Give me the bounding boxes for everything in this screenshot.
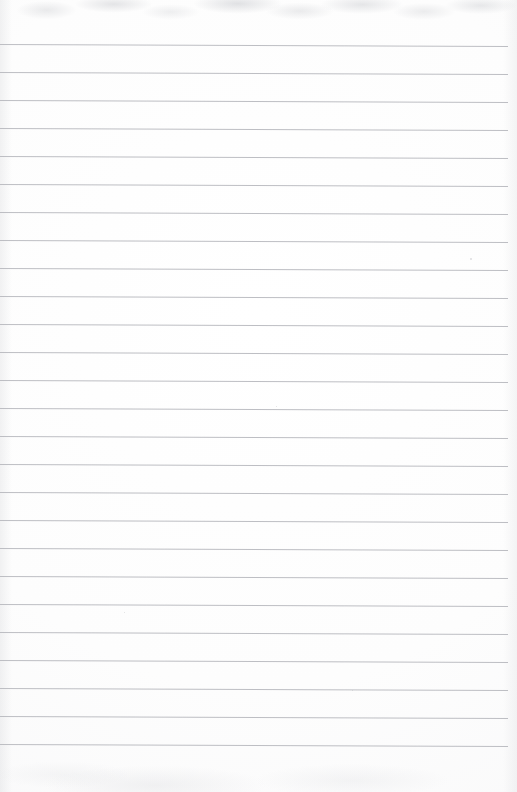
page-body-text[interactable] bbox=[0, 44, 508, 734]
notebook-page bbox=[0, 0, 517, 792]
rule-line bbox=[0, 744, 508, 747]
